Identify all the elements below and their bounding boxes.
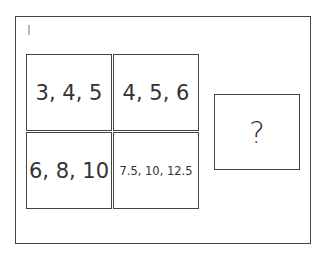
answer-box: ?	[214, 94, 300, 170]
puzzle-label: I	[27, 22, 31, 38]
grid-cell-bottom-right: 7.5, 10, 12.5	[113, 132, 199, 209]
grid-cell-top-right: 4, 5, 6	[113, 54, 199, 131]
grid-cell-top-left: 3, 4, 5	[26, 54, 112, 131]
grid-cell-bottom-left: 6, 8, 10	[26, 132, 112, 209]
